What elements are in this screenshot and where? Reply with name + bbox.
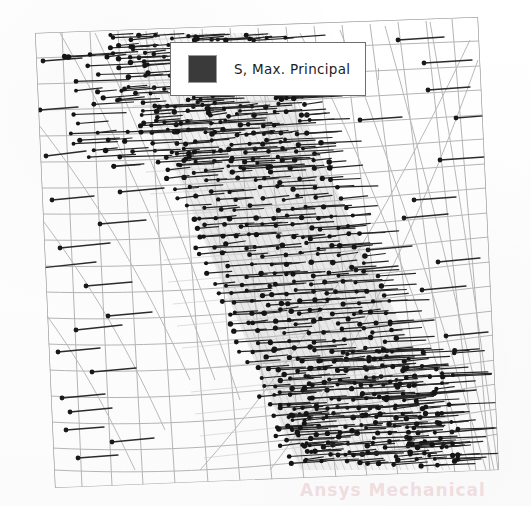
legend-box: S, Max. Principal bbox=[170, 42, 366, 96]
legend-tick-mark bbox=[378, 68, 379, 80]
stress-vector-heads-sparse-left bbox=[38, 59, 123, 461]
legend-color-swatch bbox=[188, 55, 217, 83]
figure-canvas: Ansys Mechanical S, Max. Principal bbox=[0, 0, 531, 506]
legend-label: S, Max. Principal bbox=[234, 61, 350, 77]
background-watermark-text: Ansys Mechanical bbox=[300, 480, 486, 500]
stress-vectors-sparse-left bbox=[40, 58, 164, 458]
